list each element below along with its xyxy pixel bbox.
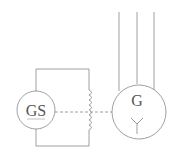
exciter-gs: GS — [17, 91, 55, 129]
exciter-label: GS — [26, 102, 46, 119]
main-generator-g: G — [112, 85, 166, 139]
generator-label: G — [131, 92, 143, 109]
generator-excitation-diagram: GS G — [0, 0, 173, 163]
loop-top-wire — [36, 69, 89, 91]
loop-bottom-wire — [36, 129, 89, 146]
output-lines — [119, 12, 154, 91]
field-coil-icon — [89, 90, 92, 130]
